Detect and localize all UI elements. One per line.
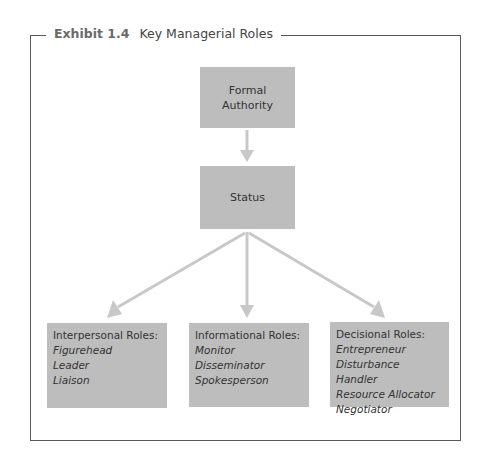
node-heading: Decisional Roles: [336, 327, 443, 342]
arrowhead-icon [370, 300, 385, 318]
role-item: Leader [53, 358, 161, 373]
role-item: Spokesperson [195, 373, 303, 388]
arrowhead-icon [240, 150, 254, 162]
node-heading: Interpersonal Roles: [53, 328, 161, 343]
arrow-status-to-decisional [249, 233, 374, 307]
role-item: Resource Allocator [336, 387, 443, 402]
node-informational-roles: Informational Roles: Monitor Disseminato… [189, 323, 309, 407]
node-status-label: Status [230, 190, 265, 205]
role-item: Entrepreneur [336, 342, 443, 357]
arrowhead-icon [107, 300, 122, 318]
arrow-status-to-interpersonal [118, 233, 245, 307]
node-formal-authority-line1: Formal [222, 83, 273, 98]
role-item: Negotiator [336, 402, 443, 417]
role-item: Figurehead [53, 343, 161, 358]
node-decisional-roles: Decisional Roles: Entrepreneur Disturban… [330, 322, 449, 407]
arrowhead-icon [240, 305, 254, 318]
node-status: Status [200, 166, 295, 229]
node-formal-authority-line2: Authority [222, 98, 273, 113]
role-item: Liaison [53, 373, 161, 388]
node-heading: Informational Roles: [195, 328, 303, 343]
node-interpersonal-roles: Interpersonal Roles: Figurehead Leader L… [47, 323, 167, 408]
role-item: Monitor [195, 343, 303, 358]
role-item: Disseminator [195, 358, 303, 373]
node-formal-authority: Formal Authority [200, 67, 295, 128]
role-item: Disturbance Handler [336, 357, 443, 387]
